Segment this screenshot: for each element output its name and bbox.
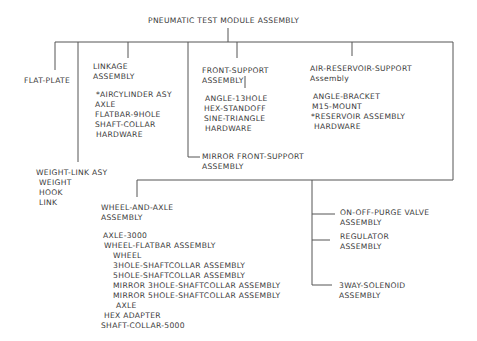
node-label: REGULATOR [340,232,389,242]
part-item: HARDWARE [202,124,269,134]
node-label: WHEEL-AND-AXLE [101,203,280,213]
part-item: HEX ADAPTER [101,311,280,321]
part-item: MIRROR 3HOLE-SHAFTCOLLAR ASSEMBLY [101,281,280,291]
part-item: 5HOLE-SHAFTCOLLAR ASSEMBLY [101,271,280,281]
part-item: LINK [36,198,108,208]
node-label: Assembly [310,74,412,84]
node-flat-plate: FLAT-PLATE [24,76,70,86]
diagram-title: PNEUMATIC TEST MODULE ASSEMBLY [148,16,299,26]
node-mirror-front-support-assembly: MIRROR FRONT-SUPPORT ASSEMBLY [202,152,304,172]
part-item: HARDWARE [310,122,412,132]
node-label: ASSEMBLY [101,213,280,223]
node-wheel-and-axle-assembly: WHEEL-AND-AXLE ASSEMBLY AXLE-3000 WHEEL-… [101,203,280,331]
part-item: HEX-STANDOFF [202,104,269,114]
node-3way-solenoid-assembly: 3WAY-SOLENOID ASSEMBLY [339,281,405,301]
part-item: AXLE [93,100,172,110]
node-label: MIRROR FRONT-SUPPORT [202,152,304,162]
node-front-support-assembly: FRONT-SUPPORT ASSEMBLY ANGLE-13HOLE HEX-… [202,66,269,134]
part-item: HARDWARE [93,130,172,140]
part-item: M15-MOUNT [310,102,412,112]
part-item: AXLE [101,301,280,311]
part-item: FLATBAR-9HOLE [93,110,172,120]
node-label: 3WAY-SOLENOID [339,281,405,291]
part-item: ANGLE-BRACKET [310,92,412,102]
part-item: WHEEL-FLATBAR ASSEMBLY [101,241,280,251]
part-item: *RESERVOIR ASSEMBLY [310,112,412,122]
part-item: AXLE-3000 [101,231,280,241]
part-item: SHAFT-COLLAR-5000 [101,321,280,331]
node-label: ASSEMBLY [339,291,405,301]
node-linkage-assembly: LINKAGE ASSEMBLY *AIRCYLINDER ASY AXLE F… [93,62,172,140]
part-item: SINE-TRIANGLE [202,114,269,124]
node-label: ASSEMBLY [93,72,172,82]
part-item: ANGLE-13HOLE [202,94,269,104]
node-label: ASSEMBLY [340,242,389,252]
node-label: WEIGHT-LINK ASY [36,168,108,178]
node-on-off-purge-valve-assembly: ON-OFF-PURGE VALVE ASSEMBLY [340,208,429,228]
node-label: AIR-RESERVOIR-SUPPORT [310,64,412,74]
node-label: ASSEMBLY [202,162,304,172]
part-item: *AIRCYLINDER ASY [93,90,172,100]
part-item: 3HOLE-SHAFTCOLLAR ASSEMBLY [101,261,280,271]
part-item: MIRROR 5HOLE-SHAFTCOLLAR ASSEMBLY [101,291,280,301]
node-air-reservoir-support-assembly: AIR-RESERVOIR-SUPPORT Assembly ANGLE-BRA… [310,64,412,132]
node-label: ASSEMBLY [340,218,429,228]
node-regulator-assembly: REGULATOR ASSEMBLY [340,232,389,252]
node-label: FRONT-SUPPORT [202,66,269,76]
node-weight-link-asy: WEIGHT-LINK ASY WEIGHT HOOK LINK [36,168,108,208]
part-item: HOOK [36,188,108,198]
part-item: WHEEL [101,251,280,261]
part-item: WEIGHT [36,178,108,188]
node-label: ASSEMBLY [202,76,269,86]
part-item: SHAFT-COLLAR [93,120,172,130]
node-label: ON-OFF-PURGE VALVE [340,208,429,218]
node-label: LINKAGE [93,62,172,72]
